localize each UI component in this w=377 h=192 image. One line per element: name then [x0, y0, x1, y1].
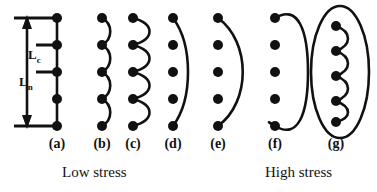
dislocation-configuration-figure: Lc Ln — [0, 0, 377, 192]
panel-f-drawing — [258, 0, 313, 140]
panel-d — [160, 0, 205, 135]
pinning-points-b — [97, 13, 107, 131]
panel-d-drawing — [160, 0, 205, 135]
caption-high-stress: High stress — [265, 164, 332, 181]
pinning-points-c — [128, 13, 138, 131]
panel-f — [258, 0, 313, 140]
pinning-points-d — [168, 13, 178, 131]
ln-dimension-arrow — [22, 15, 32, 129]
caption-low-stress: Low stress — [62, 164, 127, 181]
panel-label-e: (e) — [202, 136, 234, 152]
panel-label-c: (c) — [117, 136, 149, 152]
panel-e — [205, 0, 260, 135]
panel-e-drawing — [205, 0, 260, 135]
pinning-points-g — [331, 21, 341, 127]
lc-label: Lc — [28, 47, 41, 65]
panel-label-g: (g) — [320, 136, 352, 152]
panel-label-b: (b) — [86, 136, 118, 152]
pinning-points-e — [213, 13, 223, 131]
panel-label-a: (a) — [41, 136, 73, 152]
pinning-points-f — [270, 13, 280, 131]
panel-g — [308, 0, 374, 140]
ln-label: Ln — [19, 74, 33, 92]
panel-label-d: (d) — [157, 136, 189, 152]
panel-label-f: (f) — [259, 136, 291, 152]
panel-g-drawing — [308, 0, 374, 140]
